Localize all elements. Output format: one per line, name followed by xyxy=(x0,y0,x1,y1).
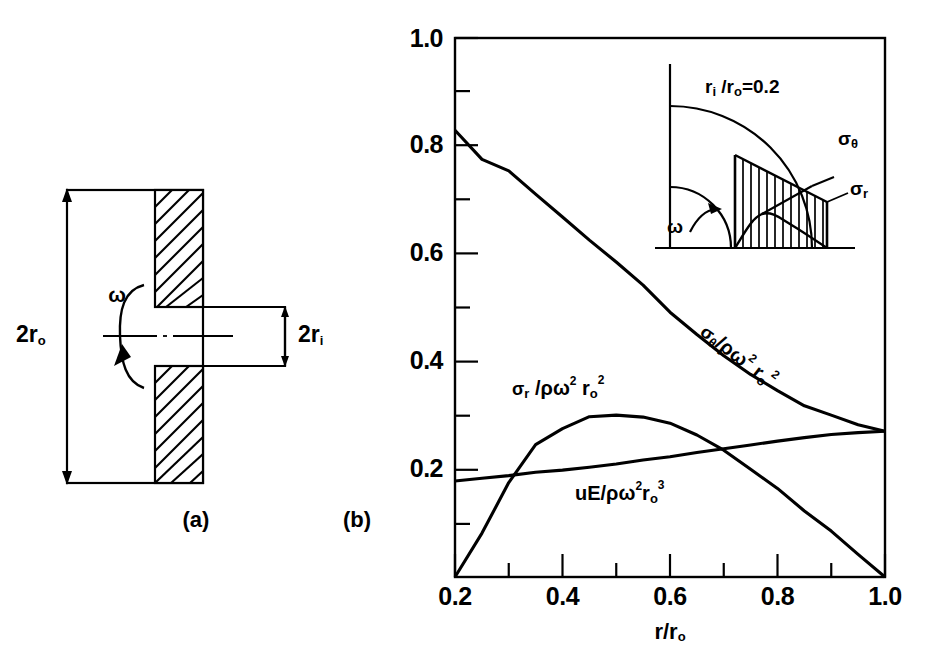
inset-sigma-theta-label: σθ xyxy=(838,128,858,151)
inset-sigma-r-curve xyxy=(735,213,827,248)
figure-svg: ω 2ro 2ri (a) (b) xyxy=(0,0,926,667)
caption-a: (a) xyxy=(183,507,210,532)
svg-text:σθ/ρω2 ro2: σθ/ρω2 ro2 xyxy=(695,317,783,394)
svg-text:0.6: 0.6 xyxy=(410,238,443,266)
svg-text:1.0: 1.0 xyxy=(868,582,901,610)
figure-container: ω 2ro 2ri (a) (b) xyxy=(0,0,926,667)
svg-text:0.8: 0.8 xyxy=(410,130,444,158)
svg-text:0.4: 0.4 xyxy=(546,582,580,610)
svg-text:0.2: 0.2 xyxy=(410,454,443,482)
inset-hatching xyxy=(735,155,823,248)
inset-sigma-theta-curve xyxy=(735,155,827,202)
outer-diameter-dimension xyxy=(62,188,72,485)
label-radial-stress: σr /ρω2 ro2 xyxy=(512,373,605,401)
y-axis-major-ticks xyxy=(455,38,478,470)
svg-text:0.2: 0.2 xyxy=(438,582,471,610)
outer-diameter-label: 2ro xyxy=(16,321,46,348)
svg-text:0.4: 0.4 xyxy=(410,346,444,374)
y-axis-tick-labels: 1.0 0.8 0.6 0.4 0.2 xyxy=(410,24,444,482)
label-hoop-stress: σθ/ρω2 ro2 xyxy=(695,317,783,394)
svg-text:uE/ρω2ro3: uE/ρω2ro3 xyxy=(575,478,665,506)
inset-sigma-r-label: σr xyxy=(850,178,868,201)
diagram-a-group: ω 2ro 2ri (a) xyxy=(16,188,323,532)
hatched-rim-upper xyxy=(155,190,203,309)
hatched-rim-lower xyxy=(155,366,203,483)
curve-radial-stress xyxy=(455,415,885,577)
inner-diameter-label: 2ri xyxy=(298,321,323,348)
x-axis-title: r/ro xyxy=(654,619,685,645)
inset-ratio-label: ri /ro=0.2 xyxy=(705,76,779,99)
svg-text:1.0: 1.0 xyxy=(410,24,443,52)
x-axis-tick-labels: 0.2 0.4 0.6 0.8 1.0 xyxy=(438,582,901,610)
label-radial-displacement: uE/ρω2ro3 xyxy=(575,478,665,506)
omega-label: ω xyxy=(108,283,126,306)
caption-b: (b) xyxy=(343,507,371,532)
inner-diameter-dimension xyxy=(281,306,289,367)
x-axis-major-ticks xyxy=(455,554,885,577)
svg-text:0.6: 0.6 xyxy=(653,582,686,610)
inset-group: σθ σr ri /ro=0.2 ω xyxy=(655,64,868,248)
curve-radial-displacement xyxy=(455,431,885,481)
svg-text:0.8: 0.8 xyxy=(761,582,795,610)
chart-b-group: 1.0 0.8 0.6 0.4 0.2 0.2 0.4 0.6 0.8 1 xyxy=(410,24,902,645)
inset-sigma-theta-leader xyxy=(812,177,834,186)
inset-omega-label: ω xyxy=(667,216,683,237)
inset-omega-arrow xyxy=(690,203,722,232)
inset-sigma-r-leader xyxy=(827,193,848,202)
y-axis-minor-ticks xyxy=(455,91,470,524)
svg-text:σr /ρω2 ro2: σr /ρω2 ro2 xyxy=(512,373,605,401)
